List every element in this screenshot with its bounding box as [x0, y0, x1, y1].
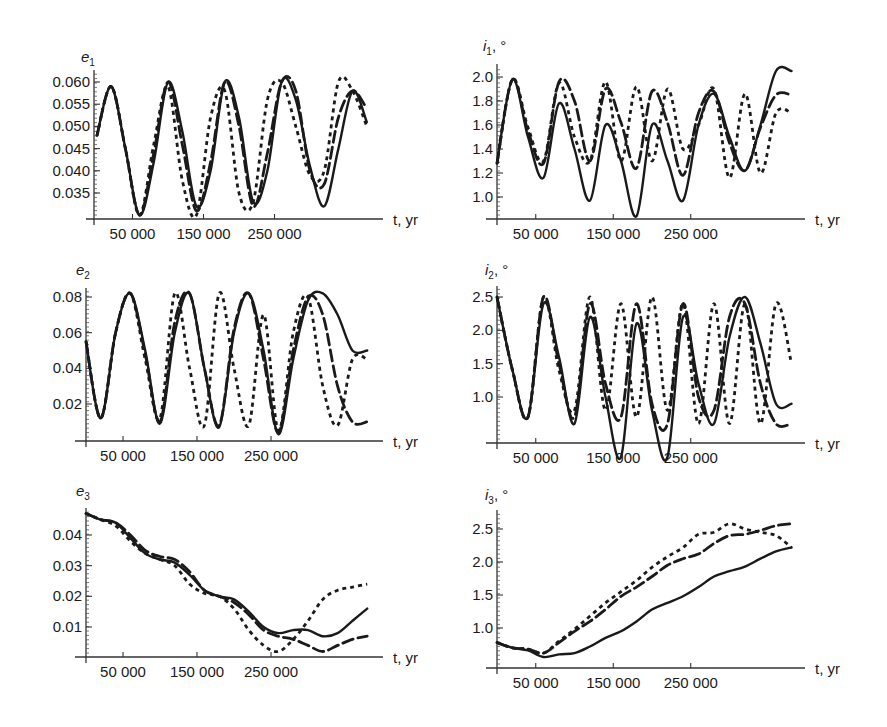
- panel-middle-right: 1.01.52.02.550 000150 000250 000t, yri2,…: [472, 261, 840, 466]
- y-tick-label: 0.04: [53, 359, 82, 376]
- x-tick-label: 250 000: [247, 225, 301, 242]
- y-tick-label: 1.2: [472, 164, 493, 181]
- y-tick-label: 0.06: [53, 324, 82, 341]
- x-tick-label: 50 000: [513, 674, 559, 691]
- x-tick-label: 250 000: [664, 449, 718, 466]
- x-tick-label: 150 000: [586, 449, 640, 466]
- y-tick-label: 2.0: [472, 553, 493, 570]
- series-solid-line: [86, 292, 367, 435]
- y-axis-title: i3, °: [485, 486, 508, 506]
- x-tick-label: 250 000: [244, 447, 298, 464]
- x-tick-label: 150 000: [586, 225, 640, 242]
- y-tick-label: 1.0: [472, 188, 493, 205]
- panel-top-right: 1.01.21.41.61.82.050 000150 000250 000t,…: [472, 37, 840, 242]
- series-dashed-line: [86, 514, 367, 652]
- x-axis-title: t, yr: [815, 660, 840, 677]
- panel-bottom-right: 1.01.52.02.550 000150 000250 000t, yri3,…: [472, 486, 840, 691]
- y-tick-label: 0.055: [52, 95, 90, 112]
- series-solid-line: [86, 514, 367, 637]
- series-solid-line: [497, 548, 792, 658]
- x-tick-label: 150 000: [170, 663, 224, 680]
- series-dashed-line: [86, 291, 367, 432]
- y-tick-label: 2.0: [472, 321, 493, 338]
- y-tick-label: 0.01: [53, 618, 82, 635]
- x-tick-label: 250 000: [664, 674, 718, 691]
- x-axis-title: t, yr: [815, 435, 840, 452]
- y-tick-label: 0.02: [53, 587, 82, 604]
- x-axis-title: t, yr: [393, 433, 418, 450]
- x-tick-label: 50 000: [513, 225, 559, 242]
- series-dashed-line: [497, 79, 792, 176]
- series-solid-line: [497, 297, 792, 461]
- y-tick-label: 0.035: [52, 184, 90, 201]
- figure-canvas: 0.0350.0400.0450.0500.0550.06050 000150 …: [0, 0, 887, 727]
- series-solid-line: [497, 67, 792, 217]
- x-tick-label: 150 000: [586, 674, 640, 691]
- y-tick-label: 2.0: [472, 68, 493, 85]
- x-tick-label: 250 000: [244, 663, 298, 680]
- y-tick-label: 0.040: [52, 162, 90, 179]
- x-axis-title: t, yr: [393, 211, 418, 228]
- y-tick-label: 1.4: [472, 140, 493, 157]
- x-tick-label: 150 000: [170, 447, 224, 464]
- series-dashed-line: [497, 524, 792, 654]
- x-tick-label: 150 000: [176, 225, 230, 242]
- x-axis-title: t, yr: [815, 211, 840, 228]
- x-axis-title: t, yr: [393, 649, 418, 666]
- x-tick-label: 50 000: [100, 663, 146, 680]
- y-axis-title: i2, °: [485, 261, 508, 281]
- y-axis-title: e1: [81, 48, 95, 68]
- y-tick-label: 1.5: [472, 355, 493, 372]
- y-tick-label: 0.050: [52, 117, 90, 134]
- series-dotted-line: [86, 292, 367, 430]
- y-tick-label: 0.04: [53, 526, 82, 543]
- y-tick-label: 0.045: [52, 140, 90, 157]
- y-tick-label: 0.060: [52, 73, 90, 90]
- y-tick-label: 2.5: [472, 520, 493, 537]
- y-axis-title: i1, °: [483, 37, 506, 57]
- panel-bottom-left: 0.010.020.030.0450 000150 000250 000t, y…: [53, 482, 418, 680]
- y-tick-label: 1.6: [472, 116, 493, 133]
- y-tick-label: 1.0: [472, 619, 493, 636]
- y-tick-label: 1.0: [472, 388, 493, 405]
- y-axis-title: e2: [76, 261, 90, 281]
- y-tick-label: 0.03: [53, 557, 82, 574]
- series-dotted-line: [497, 524, 792, 654]
- y-tick-label: 0.08: [53, 288, 82, 305]
- panel-middle-left: 0.020.040.060.0850 000150 000250 000t, y…: [53, 261, 418, 464]
- x-tick-label: 50 000: [110, 225, 156, 242]
- y-tick-label: 0.02: [53, 395, 82, 412]
- y-axis-title: e3: [76, 482, 90, 502]
- x-tick-label: 250 000: [664, 225, 718, 242]
- panel-top-left: 0.0350.0400.0450.0500.0550.06050 000150 …: [52, 48, 418, 242]
- x-tick-label: 50 000: [513, 449, 559, 466]
- y-tick-label: 2.5: [472, 288, 493, 305]
- y-tick-label: 1.8: [472, 92, 493, 109]
- y-tick-label: 1.5: [472, 586, 493, 603]
- x-tick-label: 50 000: [100, 447, 146, 464]
